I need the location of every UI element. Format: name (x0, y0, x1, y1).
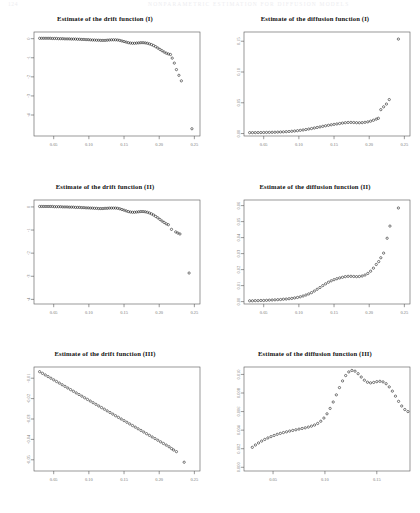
x-tick-label: 0.20 (155, 142, 163, 147)
y-tick-label: 0.06 (236, 201, 241, 209)
data-points (38, 205, 190, 274)
plot-area-diffusion-2: 0.050.100.150.200.250.000.010.020.030.04… (210, 192, 420, 332)
y-tick-label: -0.04 (26, 434, 31, 444)
x-tick-label: 0.25 (401, 142, 409, 147)
y-tick-label: 0.002 (236, 444, 241, 454)
panel-title: Estimate of the diffusion function (I) (210, 15, 420, 22)
x-tick-label: 0.15 (120, 309, 128, 314)
x-tick-label: 0.15 (373, 477, 381, 482)
y-tick-label: -3 (26, 273, 31, 277)
y-tick-label: 0.010 (236, 369, 241, 380)
y-tick-label: 0.006 (236, 406, 241, 417)
figure-page: 124 NONPARAMETRIC ESTIMATION FOR DIFFUSI… (0, 0, 420, 513)
x-tick-label: 0.15 (330, 309, 338, 314)
y-tick-label: -0.01 (26, 374, 31, 383)
y-tick-label: 0 (26, 37, 31, 40)
y-tick-label: -1 (26, 56, 31, 60)
x-tick-label: 0.25 (191, 142, 199, 147)
y-tick-label: 0.10 (236, 67, 241, 75)
panel-title: Estimate of the diffusion function (III) (210, 350, 420, 357)
y-tick-label: -1 (26, 228, 31, 232)
x-tick-label: 0.25 (401, 309, 409, 314)
data-points (248, 38, 399, 134)
y-tick-label: 0 (26, 205, 31, 208)
x-tick-label: 0.05 (50, 142, 58, 147)
plot-area-diffusion-1: 0.050.100.150.200.250.000.050.100.15 (210, 24, 420, 164)
panel-diffusion-3: Estimate of the diffusion function (III)… (210, 345, 420, 513)
x-tick-label: 0.10 (85, 309, 93, 314)
plot-area-drift-3: 0.050.100.150.200.25-0.01-0.02-0.03-0.04… (0, 359, 210, 499)
y-tick-label: 0.05 (236, 98, 241, 106)
plot-area-drift-2: 0.050.100.150.200.250-1-2-3-4 (0, 192, 210, 332)
page-header: 124 NONPARAMETRIC ESTIMATION FOR DIFFUSI… (0, 0, 420, 10)
x-tick-label: 0.20 (365, 309, 373, 314)
y-tick-label: -2 (26, 251, 31, 255)
y-tick-label: 0.15 (236, 37, 241, 45)
panel-drift-2: Estimate of the drift function (II) 0.05… (0, 178, 210, 346)
y-tick-label: -2 (26, 75, 31, 79)
panel-title: Estimate of the drift function (III) (0, 350, 210, 357)
panel-title: Estimate of the diffusion function (II) (210, 183, 420, 190)
x-tick-label: 0.20 (155, 477, 163, 482)
y-tick-label: -4 (26, 296, 31, 300)
plot-area-drift-1: 0.050.100.150.200.250-1-2-3-4 (0, 24, 210, 164)
plot-area-diffusion-3: 0.050.100.150.0000.0020.0040.0060.0080.0… (210, 359, 420, 499)
x-tick-label: 0.25 (191, 477, 199, 482)
x-tick-label: 0.10 (321, 477, 329, 482)
x-tick-label: 0.10 (295, 309, 303, 314)
x-tick-label: 0.10 (295, 142, 303, 147)
y-tick-label: -0.05 (26, 455, 31, 465)
y-tick-label: 0.004 (236, 425, 241, 436)
panel-drift-3: Estimate of the drift function (III) 0.0… (0, 345, 210, 513)
x-tick-label: 0.20 (365, 142, 373, 147)
y-tick-label: 0.05 (236, 217, 241, 225)
y-tick-label: -0.03 (26, 414, 31, 424)
x-tick-label: 0.05 (260, 142, 268, 147)
x-tick-label: 0.05 (50, 309, 58, 314)
y-tick-label: -0.02 (26, 394, 31, 403)
x-tick-label: 0.20 (155, 309, 163, 314)
panel-title: Estimate of the drift function (I) (0, 15, 210, 22)
data-points (38, 371, 185, 464)
x-tick-label: 0.05 (50, 477, 58, 482)
panel-title: Estimate of the drift function (II) (0, 183, 210, 190)
y-tick-label: 0.04 (236, 233, 241, 241)
data-points (38, 37, 193, 130)
x-tick-label: 0.15 (120, 142, 128, 147)
panel-diffusion-2: Estimate of the diffusion function (II) … (210, 178, 420, 346)
data-points (248, 207, 399, 302)
page-number: 124 (8, 1, 18, 7)
y-tick-label: 0.00 (236, 129, 241, 137)
y-tick-label: 0.01 (236, 281, 241, 289)
x-tick-label: 0.10 (85, 142, 93, 147)
x-tick-label: 0.25 (191, 309, 199, 314)
y-tick-label: 0.00 (236, 297, 241, 305)
panel-drift-1: Estimate of the drift function (I) 0.050… (0, 10, 210, 178)
y-tick-label: 0.03 (236, 249, 241, 257)
y-tick-label: 0.02 (236, 265, 241, 273)
y-tick-label: -3 (26, 93, 31, 97)
x-tick-label: 0.15 (120, 477, 128, 482)
data-points (251, 370, 409, 449)
x-tick-label: 0.05 (269, 477, 277, 482)
x-tick-label: 0.05 (260, 309, 268, 314)
running-head: NONPARAMETRIC ESTIMATION FOR DIFFUSION M… (148, 1, 349, 7)
y-tick-label: -4 (26, 112, 31, 116)
x-tick-label: 0.10 (85, 477, 93, 482)
y-tick-label: 0.008 (236, 388, 241, 399)
y-tick-label: 0.000 (236, 462, 241, 473)
panel-diffusion-1: Estimate of the diffusion function (I) 0… (210, 10, 420, 178)
x-tick-label: 0.15 (330, 142, 338, 147)
panel-grid: Estimate of the drift function (I) 0.050… (0, 10, 420, 513)
